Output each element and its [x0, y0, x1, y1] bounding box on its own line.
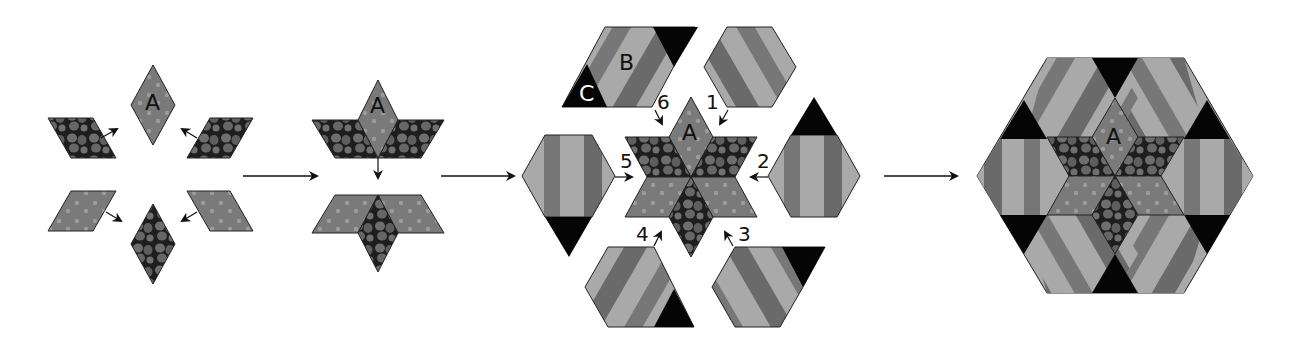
- label-c: C: [579, 81, 594, 106]
- label-b: B: [619, 50, 634, 75]
- sequence-number: 2: [757, 149, 770, 173]
- piece-b-bottom-left: [585, 247, 694, 327]
- arrow-icon: [725, 232, 733, 246]
- diagram-canvas: A A A: [0, 0, 1294, 338]
- arrow-icon: [654, 232, 661, 246]
- label-a: A: [1106, 124, 1121, 149]
- label-a: A: [370, 93, 385, 118]
- arrow-icon: [720, 110, 728, 124]
- sequence-number: 1: [706, 90, 719, 114]
- piece-b-bottom-right: [712, 247, 825, 327]
- sequence-number: 6: [657, 90, 670, 114]
- sequence-number: 4: [636, 222, 649, 246]
- piece-b-left: [522, 135, 615, 257]
- diamond-dot-lower-right: [187, 191, 253, 231]
- arrow-icon: [101, 129, 117, 138]
- stage-1-separate-diamonds: A: [48, 65, 253, 284]
- sequence-number: 3: [738, 222, 751, 246]
- diamond-rock-upper-left: [48, 118, 116, 158]
- sequence-number: 5: [620, 149, 633, 173]
- diamond-rock-bottom: [131, 204, 175, 284]
- diamond-dot-lower-left: [48, 191, 116, 231]
- stage-4-finished-hexagon: A: [977, 58, 1253, 293]
- label-a: A: [682, 120, 697, 145]
- quilt-assembly-diagram: A A A: [0, 0, 1294, 338]
- piece-b-top-left: B C: [562, 27, 698, 107]
- piece-b-right: [768, 97, 860, 217]
- stage-2-half-stars: A: [312, 80, 444, 272]
- arrow-icon: [182, 212, 197, 221]
- arrow-icon: [106, 212, 121, 221]
- label-a: A: [145, 90, 160, 115]
- stage-3-star-with-hexagons: A B C: [522, 27, 860, 327]
- arrow-icon: [182, 129, 197, 138]
